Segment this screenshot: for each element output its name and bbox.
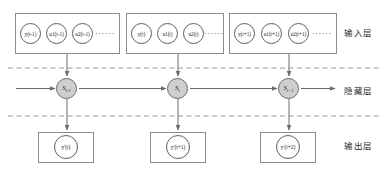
hidden-node-s-t-plus-1: St+1	[278, 78, 299, 99]
output-node-y-prime-t-plus-2: y'(t+2)	[276, 135, 300, 159]
input-node-y-t-plus-1: y(t+1)	[234, 23, 255, 44]
layer-label-hidden: 隐藏层	[344, 84, 373, 96]
input-node-u1-t: u1(t)	[157, 23, 178, 44]
input-node-u1-t-plus-1: u1(t+1)	[261, 23, 282, 44]
input-node-u2-t-minus-1: u2(t-1)	[72, 23, 93, 44]
layer-label-input: 输入层	[344, 26, 373, 38]
input-node-u2-t: u2(t)	[183, 23, 204, 44]
output-node-y-prime-t: y'(t)	[54, 135, 78, 159]
output-node-y-prime-t-plus-1: y'(t+1)	[166, 135, 190, 159]
input-ellipsis-t-minus-1: ······	[95, 30, 115, 38]
input-node-u2-t-plus-1: u2(t+1)	[288, 23, 309, 44]
layer-label-output: 输出层	[344, 139, 373, 151]
input-node-y-t: y(t)	[131, 23, 152, 44]
hidden-node-s-t-minus-1: St-1	[56, 78, 77, 99]
input-ellipsis-t: ······	[204, 30, 224, 38]
input-node-y-t-minus-1: y(t-1)	[20, 23, 41, 44]
hidden-node-s-t: St	[167, 78, 188, 99]
input-node-u1-t-minus-1: u1(t-1)	[46, 23, 67, 44]
input-ellipsis-t-plus-1: ······	[312, 30, 332, 38]
